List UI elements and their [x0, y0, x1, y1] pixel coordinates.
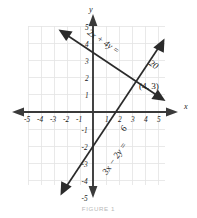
y-axis-arrow-down — [89, 186, 98, 198]
line2-equation-label: 3x − 2y = 6 — [100, 123, 130, 177]
x-tick-label: 5 — [157, 115, 161, 124]
x-axis-arrow-left — [12, 108, 24, 117]
y-tick-label: -1 — [82, 126, 88, 135]
y-axis-label: y — [88, 5, 93, 14]
x-tick-label: -2 — [63, 115, 69, 124]
coordinate-plane-figure: y x -5 -4 -3 -2 -1 1 2 3 4 5 5 4 3 2 1 -… — [0, 0, 197, 218]
y-tick-label: 1 — [85, 91, 89, 100]
line2-equation-text-part-a: 3x − 2y = — [100, 140, 129, 177]
figure-container: y x -5 -4 -3 -2 -1 1 2 3 4 5 5 4 3 2 1 -… — [0, 0, 197, 218]
line1-equation-label: 2x + 4y = 20 — [86, 27, 161, 71]
x-tick-label: -4 — [37, 115, 43, 124]
x-axis-arrow-right — [166, 108, 178, 117]
y-axis-arrow-up — [89, 14, 98, 26]
x-tick-label: 4 — [144, 115, 148, 124]
x-tick-label: 2 — [118, 115, 122, 124]
line1-arrow-upper-left — [59, 30, 73, 41]
y-tick-label: -4 — [82, 177, 88, 186]
y-tick-label: -5 — [82, 194, 88, 203]
y-tick-label: 3 — [84, 57, 89, 66]
intersection-point-label: (4, 3) — [139, 81, 159, 91]
figure-caption: FIGURE 1 — [0, 205, 197, 213]
x-tick-label: 3 — [130, 115, 135, 124]
y-tick-label: 2 — [85, 74, 89, 83]
y-tick-label: -2 — [82, 143, 88, 152]
x-axis-label: x — [183, 102, 188, 111]
x-tick-label: -5 — [24, 115, 30, 124]
grid-lines — [28, 26, 165, 185]
x-tick-label: -3 — [50, 115, 56, 124]
line1-arrow-lower-right — [151, 90, 165, 101]
x-tick-label: -1 — [76, 115, 82, 124]
line2-arrow-lower-left — [61, 181, 72, 195]
